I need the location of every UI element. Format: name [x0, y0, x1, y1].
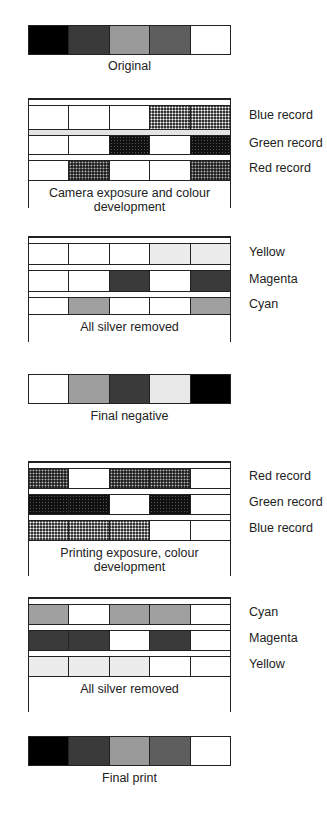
patch [29, 375, 69, 403]
layer-cell [150, 136, 190, 154]
diagram-caption: All silver removed [29, 314, 230, 342]
patch [29, 737, 69, 765]
layer-cell [110, 298, 150, 314]
patch [191, 737, 230, 765]
patch [69, 375, 109, 403]
original-strip [28, 25, 231, 55]
layer-label: Green record [249, 495, 323, 509]
emulsion-layer [29, 243, 230, 264]
layer-cell [191, 631, 230, 650]
layer-cell [191, 521, 230, 540]
layer-cell [150, 106, 190, 129]
layer-cell [69, 298, 109, 314]
layer-cell [110, 136, 150, 154]
print-dye-layers: All silver removed [28, 597, 231, 712]
emulsion-layer [29, 630, 230, 650]
layer-cell [150, 605, 190, 624]
layer-cell [29, 469, 69, 488]
layer-label: Magenta [249, 272, 298, 286]
layer-label: Yellow [249, 245, 285, 259]
layer-label: Blue record [249, 521, 313, 535]
layer-cell [69, 469, 109, 488]
layer-cell [150, 495, 190, 514]
layer-cell [150, 631, 190, 650]
layer-cell [29, 521, 69, 540]
patch [29, 26, 69, 54]
layer-cell [69, 136, 109, 154]
emulsion-layer [29, 604, 230, 624]
emulsion-layer [29, 297, 230, 314]
layer-cell [110, 631, 150, 650]
printing-layers: Printing exposure, colour development [28, 461, 231, 576]
layer-cell [29, 605, 69, 624]
layer-cell [191, 244, 230, 264]
patch [110, 375, 150, 403]
patch [110, 26, 150, 54]
layer-cell [29, 136, 69, 154]
layer-cell [150, 271, 190, 291]
layer-cell [69, 271, 109, 291]
layer-cell [150, 161, 190, 180]
layer-cell [150, 469, 190, 488]
layer-cell [110, 521, 150, 540]
layer-cell [191, 106, 230, 129]
patch [110, 737, 150, 765]
layer-label: Yellow [249, 657, 285, 671]
layer-cell [150, 298, 190, 314]
patch [69, 737, 109, 765]
layer-cell [29, 298, 69, 314]
layer-cell [29, 161, 69, 180]
diagram-caption: All silver removed [29, 676, 230, 712]
layer-cell [69, 631, 109, 650]
layer-cell [110, 271, 150, 291]
layer-label: Red record [249, 161, 311, 175]
layer-cell [150, 244, 190, 264]
patch [150, 26, 190, 54]
emulsion-layer [29, 160, 230, 180]
emulsion-layer [29, 520, 230, 540]
layer-label: Green record [249, 136, 323, 150]
patch [191, 26, 230, 54]
layer-cell [110, 495, 150, 514]
layer-cell [29, 106, 69, 129]
camera-layers: Camera exposure and colour development [28, 98, 231, 208]
patch [150, 737, 190, 765]
layer-cell [191, 271, 230, 291]
layer-cell [191, 161, 230, 180]
emulsion-layer [29, 468, 230, 488]
layer-cell [110, 161, 150, 180]
layer-cell [110, 244, 150, 264]
final-negative-strip [28, 374, 231, 404]
layer-cell [191, 298, 230, 314]
layer-cell [191, 136, 230, 154]
negative-dye-layers: All silver removed [28, 236, 231, 342]
layer-cell [69, 521, 109, 540]
layer-label: Cyan [249, 297, 278, 311]
layer-cell [69, 244, 109, 264]
diagram-caption: Camera exposure and colour development [29, 180, 230, 208]
emulsion-layer [29, 656, 230, 676]
patch [69, 26, 109, 54]
patch [191, 375, 230, 403]
original-caption: Original [28, 59, 231, 73]
layer-label: Red record [249, 469, 311, 483]
emulsion-layer [29, 494, 230, 514]
layer-cell [110, 657, 150, 676]
layer-cell [29, 271, 69, 291]
layer-cell [110, 605, 150, 624]
layer-cell [191, 605, 230, 624]
layer-cell [29, 495, 69, 514]
final-negative-caption: Final negative [28, 409, 231, 423]
layer-cell [69, 106, 109, 129]
layer-cell [29, 657, 69, 676]
emulsion-layer [29, 270, 230, 291]
layer-cell [191, 469, 230, 488]
layer-cell [150, 657, 190, 676]
layer-cell [69, 495, 109, 514]
final-print-strip [28, 736, 231, 766]
layer-cell [110, 106, 150, 129]
final-print-caption: Final print [28, 771, 231, 785]
layer-cell [191, 657, 230, 676]
layer-cell [191, 495, 230, 514]
patch [150, 375, 190, 403]
